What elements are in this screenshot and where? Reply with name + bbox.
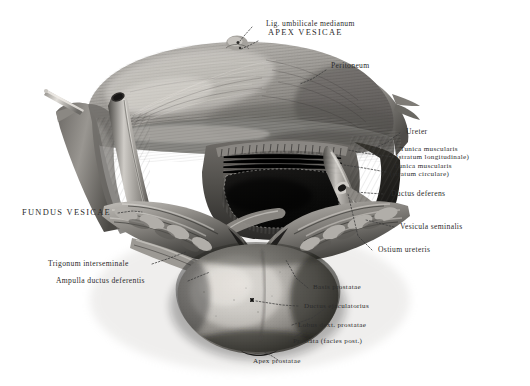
label-fundus-vesicae: FUNDUS VESICAE	[22, 209, 111, 218]
label-ureter: Ureter	[406, 128, 428, 136]
anatomical-plate: Lig. umbilicale medianum APEX VESICAE Pe…	[0, 0, 530, 386]
label-apex-prostatae: Apex prostatae	[253, 358, 301, 366]
label-ampulla-ductus-deferentis: Ampulla ductus deferentis	[56, 277, 145, 285]
label-ostium-ureteris: Ostium ureteris	[378, 246, 430, 254]
label-tunica-muscularis-circulare-line2: (stratum circulare)	[390, 171, 449, 179]
ductus-ejaculatorius-mark	[250, 298, 254, 302]
anatomy-illustration	[0, 0, 530, 386]
label-trigonum-interseminale: Trigonum interseminale	[48, 260, 129, 268]
label-basis-prostatae: Basis prostatae	[313, 284, 361, 292]
label-ductus-deferens: Ductus deferens	[391, 190, 445, 198]
label-lobus-dext-prostatae: Lobus dext. prostatae	[298, 322, 366, 330]
label-prostata-facies-post: Prostata (facies post.)	[293, 338, 362, 346]
label-apex-vesicae: APEX VESICAE	[268, 29, 343, 38]
label-ductus-ejaculatorius: Ductus ejaculatorius	[304, 303, 369, 311]
label-tunica-muscularis-longitudinale-line2: (stratum longitudinale)	[396, 154, 469, 162]
label-lig-umbilicale-medianum: Lig. umbilicale medianum	[266, 20, 355, 28]
label-vesicula-seminalis: Vesicula seminalis	[400, 223, 463, 231]
label-peritoneum: Peritoneum	[331, 62, 370, 70]
